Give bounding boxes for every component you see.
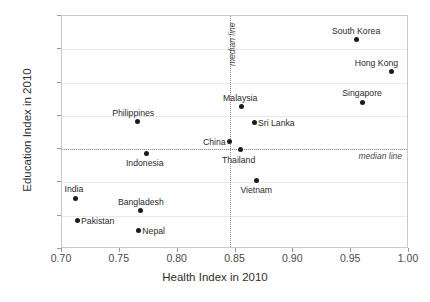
- y-tick-mark: [57, 15, 61, 16]
- data-point[interactable]: [360, 100, 365, 105]
- data-point-label: Nepal: [142, 227, 165, 236]
- y-tick-mark: [57, 215, 61, 216]
- data-point[interactable]: [144, 151, 149, 156]
- data-point[interactable]: [252, 120, 257, 125]
- data-point-label: Malaysia: [223, 94, 257, 103]
- data-point-label: China: [203, 138, 226, 147]
- data-point[interactable]: [136, 228, 141, 233]
- data-point-label: Hong Kong: [355, 59, 398, 68]
- y-tick-mark: [57, 48, 61, 49]
- x-tick-label: 0.90: [267, 253, 317, 264]
- horizontal-median-line-label: median line: [359, 152, 402, 161]
- data-point[interactable]: [73, 196, 78, 201]
- data-point-label: Philippines: [112, 109, 154, 118]
- data-point-label: South Korea: [332, 27, 380, 36]
- data-point[interactable]: [354, 37, 359, 42]
- data-point[interactable]: [254, 178, 259, 183]
- gridline-horizontal: [62, 83, 407, 84]
- x-tick-label: 0.80: [152, 253, 202, 264]
- x-tick-label: 1.00: [383, 253, 430, 264]
- x-axis-title: Health Index in 2010: [0, 271, 430, 283]
- y-tick-mark: [57, 181, 61, 182]
- data-point-label: Thailand: [222, 156, 255, 165]
- data-point[interactable]: [238, 147, 243, 152]
- x-tick-label: 0.75: [94, 253, 144, 264]
- scatter-chart-figure: median linemedian lineSouth KoreaHong Ko…: [0, 0, 430, 302]
- data-point[interactable]: [239, 104, 244, 109]
- x-tick-label: 0.85: [210, 253, 260, 264]
- x-tick-label: 0.70: [36, 253, 86, 264]
- y-axis-title: Education Index in 2010: [21, 15, 33, 245]
- data-point-label: India: [65, 185, 84, 194]
- horizontal-median-line: [62, 149, 407, 150]
- y-tick-mark: [57, 148, 61, 149]
- data-point[interactable]: [135, 119, 140, 124]
- data-point-label: Singapore: [342, 89, 382, 98]
- y-tick-mark: [57, 115, 61, 116]
- data-point[interactable]: [75, 218, 80, 223]
- x-tick-label: 0.95: [325, 253, 375, 264]
- data-point-label: Vietnam: [240, 186, 272, 195]
- plot-area: median linemedian lineSouth KoreaHong Ko…: [61, 15, 408, 248]
- data-point[interactable]: [138, 208, 143, 213]
- data-point-label: Indonesia: [126, 159, 164, 168]
- data-point-label: Bangladesh: [118, 198, 164, 207]
- data-point-label: Pakistan: [81, 217, 114, 226]
- y-tick-mark: [57, 82, 61, 83]
- data-point[interactable]: [227, 139, 232, 144]
- gridline-horizontal: [62, 182, 407, 183]
- data-point-label: Sri Lanka: [258, 119, 295, 128]
- data-point[interactable]: [389, 69, 394, 74]
- vertical-median-line-label: median line: [228, 23, 237, 66]
